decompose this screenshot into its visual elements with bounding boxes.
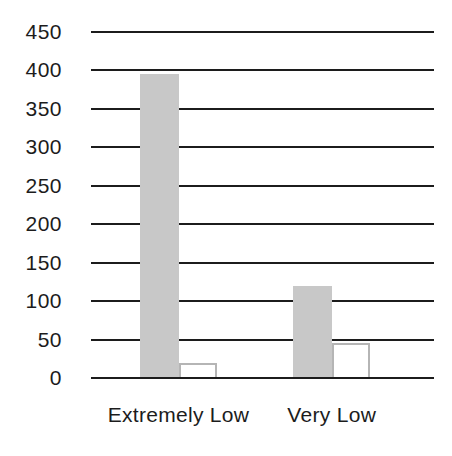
y-tick-label: 0 <box>0 367 62 389</box>
x-category-label: Very Low <box>232 403 432 427</box>
bar-extremely-low-white-outlined-bars <box>179 363 218 378</box>
gridline <box>91 31 434 33</box>
y-tick-label: 200 <box>0 213 62 235</box>
y-tick-label: 300 <box>0 136 62 158</box>
y-tick-label: 250 <box>0 175 62 197</box>
y-tick-label: 350 <box>0 98 62 120</box>
y-tick-label: 450 <box>0 21 62 43</box>
bar-very-low-white-outlined-bars <box>332 343 371 378</box>
y-tick-label: 100 <box>0 290 62 312</box>
bar-chart: 450400350300250200150100500 Extremely Lo… <box>0 0 452 456</box>
bar-very-low-gray-filled-bars <box>293 286 332 378</box>
y-tick-label: 400 <box>0 59 62 81</box>
y-tick-label: 50 <box>0 329 62 351</box>
y-tick-label: 150 <box>0 252 62 274</box>
bar-extremely-low-gray-filled-bars <box>140 74 179 378</box>
gridline <box>91 69 434 71</box>
x-axis-baseline <box>91 377 434 379</box>
